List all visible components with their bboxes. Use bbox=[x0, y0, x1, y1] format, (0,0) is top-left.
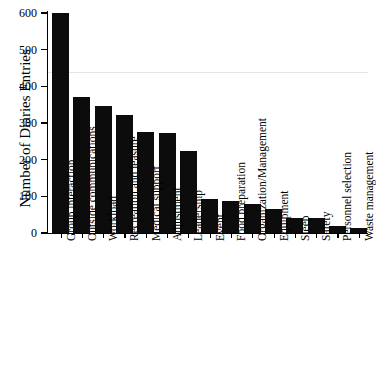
y-axis-tick-label: 400 bbox=[3, 80, 37, 92]
x-axis-tick bbox=[274, 234, 275, 238]
x-axis-tick bbox=[231, 234, 232, 238]
x-axis-tick bbox=[210, 234, 211, 238]
y-axis-tick-label: 300 bbox=[3, 117, 37, 129]
x-axis-label: Waste management bbox=[364, 152, 376, 241]
y-axis-tick-label: 100 bbox=[3, 190, 37, 202]
x-axis-label: Event bbox=[215, 214, 227, 241]
y-axis-tick-label: 600 bbox=[3, 7, 37, 19]
x-axis-tick bbox=[188, 234, 189, 238]
x-axis-label: Safety bbox=[321, 212, 333, 241]
x-axis-tick bbox=[103, 234, 104, 238]
x-axis-label: Recreation and leasure bbox=[129, 136, 141, 241]
x-axis-tick bbox=[167, 234, 168, 238]
x-axis-tick bbox=[124, 234, 125, 238]
x-axis-tick bbox=[316, 234, 317, 238]
x-axis-label: Leadership bbox=[193, 190, 205, 241]
x-axis-tick bbox=[252, 234, 253, 238]
x-axis-label: Food preparation bbox=[236, 162, 248, 241]
x-axis-tick bbox=[337, 234, 338, 238]
x-axis-label: Equipment bbox=[279, 191, 291, 241]
y-axis-tick-label: 200 bbox=[3, 154, 37, 166]
x-axis-label: Outside communications bbox=[87, 126, 99, 241]
bar-chart-figure: Number of Diaries Entries 01002003004005… bbox=[0, 0, 376, 385]
x-axis-label: Medical support bbox=[151, 166, 163, 241]
x-axis-tick bbox=[61, 234, 62, 238]
x-axis-label: Adjustment bbox=[172, 187, 184, 241]
x-axis-tick bbox=[146, 234, 147, 238]
y-axis-tick-label: 0 bbox=[3, 227, 37, 239]
x-axis-label: Organization/Management bbox=[257, 118, 269, 241]
x-axis-label: Sleep bbox=[300, 215, 312, 241]
x-axis-label: Group interaction bbox=[66, 160, 78, 241]
y-axis-tick-label: 500 bbox=[3, 44, 37, 56]
x-axis-label: Personnel selection bbox=[342, 152, 354, 241]
x-axis-tick bbox=[359, 234, 360, 238]
x-axis-tick bbox=[295, 234, 296, 238]
x-axis-label: Workload bbox=[108, 196, 120, 241]
x-axis-tick bbox=[82, 234, 83, 238]
